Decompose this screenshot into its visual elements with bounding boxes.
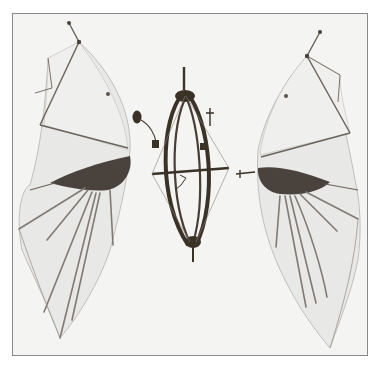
ornithopter-photo [0, 0, 381, 365]
frame-paddle-arm [141, 120, 156, 142]
left-wing-joint [77, 40, 81, 44]
right-wing-mid-joint [284, 94, 288, 98]
central-frame [133, 67, 256, 262]
frame-clamp-right [200, 143, 207, 150]
left-wing [19, 21, 131, 338]
frame-clamp-left [152, 140, 159, 148]
left-wing-mid-joint [106, 92, 110, 96]
left-wing-tip-knob [67, 21, 71, 25]
right-wing-joint [305, 54, 309, 58]
frame-side-key [236, 170, 255, 178]
right-wing [257, 30, 360, 348]
frame-crossbar [152, 168, 229, 174]
frame-side-paddle [133, 111, 142, 124]
frame-top-pin [206, 108, 214, 126]
right-wing-tip-knob [318, 30, 322, 34]
